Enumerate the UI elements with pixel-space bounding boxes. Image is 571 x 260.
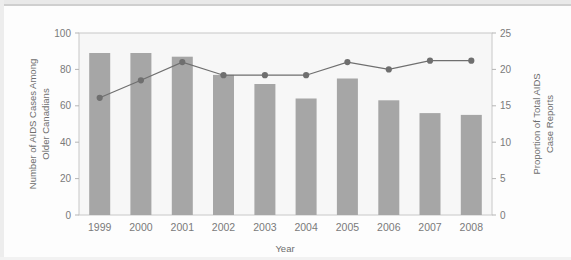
line-marker-2007 xyxy=(427,58,433,64)
left-axis-title-line1: Number of AIDS Cases Among xyxy=(27,59,38,189)
bar-2004 xyxy=(296,99,317,216)
x-axis-ticks: 1999200020012002200320042005200620072008 xyxy=(88,221,483,233)
right-tick-label: 10 xyxy=(500,137,512,148)
x-tick-label-2004: 2004 xyxy=(294,221,318,233)
x-tick-label-2006: 2006 xyxy=(377,221,401,233)
right-axis-title-line1: Proportion of Total AIDS xyxy=(531,73,542,174)
line-marker-2006 xyxy=(386,66,392,72)
x-tick-label-2001: 2001 xyxy=(171,221,195,233)
bar-2007 xyxy=(420,113,441,215)
left-tick-label: 100 xyxy=(54,28,71,39)
line-marker-2002 xyxy=(220,72,226,78)
line-marker-2005 xyxy=(344,59,350,65)
bar-2008 xyxy=(461,115,482,215)
left-tick-label: 20 xyxy=(60,173,72,184)
left-tick-label: 60 xyxy=(60,100,72,111)
left-axis-ticks: 020406080100 xyxy=(54,28,79,221)
x-tick-label-2008: 2008 xyxy=(460,221,484,233)
left-axis-title-line2: Older Canadians xyxy=(40,88,51,160)
bar-2003 xyxy=(254,84,275,215)
right-tick-label: 15 xyxy=(500,100,512,111)
bar-2002 xyxy=(213,75,234,215)
left-tick-label: 40 xyxy=(60,137,72,148)
bar-2006 xyxy=(378,100,399,215)
line-marker-2000 xyxy=(138,77,144,83)
right-tick-label: 20 xyxy=(500,64,512,75)
x-tick-label-1999: 1999 xyxy=(88,221,112,233)
right-axis-ticks: 0510152025 xyxy=(492,28,512,221)
bar-1999 xyxy=(89,53,110,215)
left-tick-label: 80 xyxy=(60,64,72,75)
x-tick-label-2003: 2003 xyxy=(253,221,277,233)
x-tick-label-2007: 2007 xyxy=(418,221,442,233)
combo-chart: 020406080100 0510152025 1999200020012002… xyxy=(0,0,571,260)
right-tick-label: 0 xyxy=(500,210,506,221)
x-axis-title: Year xyxy=(275,243,294,254)
line-marker-2008 xyxy=(468,58,474,64)
left-tick-label: 0 xyxy=(65,210,71,221)
right-axis-title-line2: Case Reports xyxy=(544,95,555,153)
x-tick-label-2000: 2000 xyxy=(129,221,153,233)
right-tick-label: 5 xyxy=(500,173,506,184)
chart-figure: 020406080100 0510152025 1999200020012002… xyxy=(0,0,571,260)
bar-2001 xyxy=(172,57,193,215)
line-marker-2004 xyxy=(303,72,309,78)
right-tick-label: 25 xyxy=(500,28,512,39)
bar-2005 xyxy=(337,79,358,216)
line-marker-2003 xyxy=(262,72,268,78)
x-tick-label-2005: 2005 xyxy=(336,221,360,233)
line-marker-1999 xyxy=(97,95,103,101)
x-tick-label-2002: 2002 xyxy=(212,221,236,233)
line-marker-2001 xyxy=(179,59,185,65)
